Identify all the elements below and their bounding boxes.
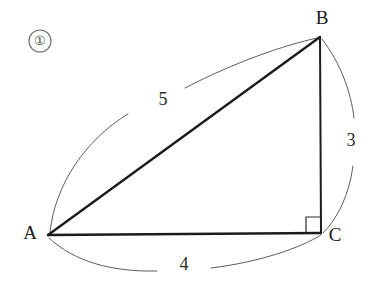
- problem-number-marker: ①: [29, 30, 51, 52]
- triangle-side-ac: [48, 233, 321, 235]
- triangle-side-ab: [48, 37, 320, 235]
- vertex-label-c: C: [329, 224, 342, 245]
- triangle-diagram: ① A B C 5 3 4: [0, 0, 384, 296]
- measure-arc-ac-segment-left: [49, 238, 157, 271]
- vertex-label-a: A: [23, 222, 37, 243]
- side-measure-ac: 4: [180, 254, 189, 274]
- side-measure-bc: 3: [347, 130, 356, 150]
- problem-number-label: ①: [34, 33, 46, 48]
- measure-arc-ab-segment-lower: [50, 114, 128, 232]
- geometry-figure-canvas: ① A B C 5 3 4: [0, 0, 384, 296]
- measure-arc-ab-segment-upper: [185, 38, 317, 88]
- vertex-label-b: B: [316, 7, 329, 28]
- measure-arc-ac-segment-right: [211, 235, 321, 268]
- side-measure-ab: 5: [159, 89, 168, 109]
- right-angle-marker-icon: [306, 217, 321, 232]
- measure-arc-bc-segment-lower: [323, 166, 353, 233]
- measure-arc-bc-segment-upper: [322, 39, 354, 118]
- triangle-side-bc: [320, 37, 321, 233]
